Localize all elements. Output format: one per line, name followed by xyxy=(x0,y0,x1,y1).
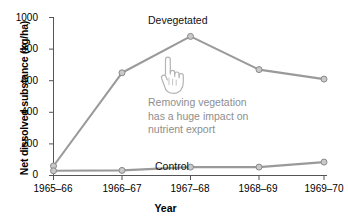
annotation-line-2: has a huge impact on xyxy=(148,110,308,124)
series-label-devegetated: Devegetated xyxy=(148,14,208,26)
annotation-callout: Removing vegetation has a huge impact on… xyxy=(148,96,308,137)
x-axis-title: Year xyxy=(0,202,331,214)
annotation-line-3: nutrient export xyxy=(148,123,308,137)
annotation-line-1: Removing vegetation xyxy=(148,96,308,110)
series-label-control: Control xyxy=(155,160,189,172)
pointing-hand-icon xyxy=(152,53,186,95)
x-axis-ticks xyxy=(54,176,325,181)
y-axis-ticks xyxy=(49,18,54,176)
